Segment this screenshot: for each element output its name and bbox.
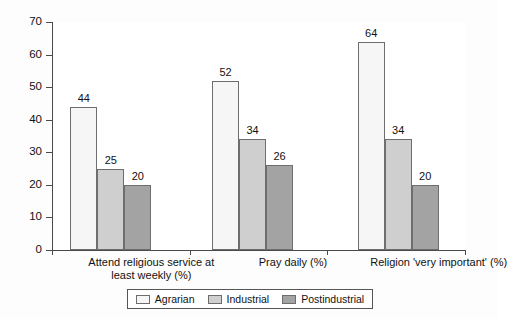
- bar-value-label: 20: [116, 170, 159, 182]
- y-axis-tick-label: 30: [0, 146, 42, 156]
- bar-value-label: 20: [404, 170, 447, 182]
- legend-swatch-icon-agrarian: [136, 295, 150, 304]
- legend-label-postindustrial: Postindustrial: [301, 293, 364, 305]
- y-axis-tick: [46, 152, 52, 153]
- chart-legend: Agrarian Industrial Postindustrial: [127, 289, 373, 309]
- x-axis-category-label: Pray daily (%): [233, 256, 353, 269]
- legend-label-industrial: Industrial: [227, 293, 270, 305]
- y-axis-tick: [46, 217, 52, 218]
- bar-value-label: 25: [89, 154, 132, 166]
- y-axis-tick-label: 10: [0, 211, 42, 221]
- x-axis-category-label: Attend religious service at least weekly…: [76, 256, 226, 282]
- x-axis-tick: [465, 250, 466, 255]
- bar-value-label: 52: [204, 66, 247, 78]
- legend-swatch-icon-postindustrial: [282, 295, 296, 304]
- bar-value-label: 34: [377, 124, 420, 136]
- y-axis-line: [52, 22, 53, 251]
- bar: [212, 81, 239, 250]
- x-axis-tick: [52, 250, 53, 255]
- y-axis-tick-label: 20: [0, 179, 42, 189]
- y-axis-tick-label: 60: [0, 49, 42, 59]
- bar-value-label: 26: [258, 150, 301, 162]
- x-axis-tick: [190, 250, 191, 255]
- y-axis-tick: [46, 22, 52, 23]
- bar: [70, 107, 97, 250]
- bar: [358, 42, 385, 250]
- y-axis-tick: [46, 185, 52, 186]
- bar: [124, 185, 151, 250]
- y-axis-tick: [46, 87, 52, 88]
- y-axis-tick-label: 40: [0, 114, 42, 124]
- bar: [266, 165, 293, 250]
- legend-item-agrarian: Agrarian: [136, 293, 195, 305]
- legend-swatch-icon-industrial: [208, 295, 222, 304]
- y-axis-tick-label: 70: [0, 16, 42, 26]
- legend-item-industrial: Industrial: [208, 293, 270, 305]
- bar-value-label: 34: [231, 124, 274, 136]
- bar: [385, 139, 412, 250]
- legend-label-agrarian: Agrarian: [155, 293, 195, 305]
- y-axis-tick: [46, 55, 52, 56]
- x-axis-category-label: Religion 'very important' (%): [369, 256, 509, 269]
- bar-value-label: 44: [62, 92, 105, 104]
- bar: [412, 185, 439, 250]
- x-axis-tick: [327, 250, 328, 255]
- x-axis-line: [52, 250, 465, 251]
- y-axis-tick-label: 50: [0, 81, 42, 91]
- bar-value-label: 64: [350, 27, 393, 39]
- y-axis-tick: [46, 120, 52, 121]
- y-axis-tick-label: 0: [0, 244, 42, 254]
- legend-item-postindustrial: Postindustrial: [282, 293, 364, 305]
